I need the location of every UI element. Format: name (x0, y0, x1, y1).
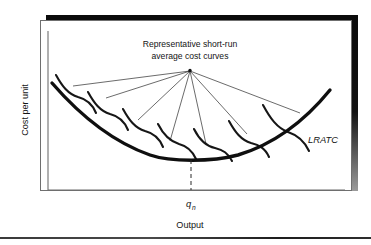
annotation-line-2: average cost curves (152, 51, 229, 61)
leader-line-6 (190, 71, 247, 134)
lratc-diagram: Representative short-run average cost cu… (0, 0, 371, 245)
sratc-curve-3 (123, 109, 163, 147)
leader-line-4 (170, 71, 190, 141)
leader-line-7 (190, 71, 300, 113)
x-tick-label-qn: q n (186, 198, 196, 211)
y-axis-title: Cost per unit (20, 84, 30, 136)
leader-line-2 (106, 71, 190, 98)
leader-line-1 (73, 71, 190, 86)
short-run-cost-curves (56, 75, 309, 161)
lratc-envelope-curve (52, 83, 330, 160)
sratc-curve-4 (158, 124, 196, 159)
annotation-text-block: Representative short-run average cost cu… (143, 39, 238, 61)
leader-convergence-dot (188, 69, 191, 72)
lratc-label: LRATC (308, 134, 338, 145)
x-tick-subscript: n (192, 204, 196, 211)
annotation-line-1: Representative short-run (143, 39, 238, 49)
sratc-curve-7 (263, 105, 309, 151)
x-axis-title: Output (176, 220, 204, 230)
bottom-divider (0, 237, 371, 239)
figure-stage: Representative short-run average cost cu… (0, 0, 371, 245)
leader-line-3 (138, 71, 190, 120)
leader-line-5 (190, 71, 206, 144)
